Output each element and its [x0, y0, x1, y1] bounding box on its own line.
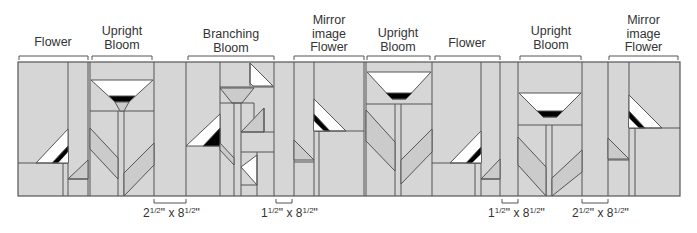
dim-height-frac: 1/2 [529, 206, 540, 215]
dim-width-whole: 1 [261, 206, 268, 220]
inch-mark: " [541, 206, 545, 220]
spacer-dimension-3: 11/2" x 81/2" [488, 206, 545, 220]
dim-width-whole: 2 [572, 206, 579, 220]
inch-mark: " [279, 206, 283, 220]
dim-width-frac: 1/2 [150, 206, 161, 215]
inch-mark: " [506, 206, 510, 220]
inch-mark: " [590, 206, 594, 220]
inch-mark: " [314, 206, 318, 220]
dim-width-whole: 2 [143, 206, 150, 220]
spacer-dimension-1: 21/2" x 81/2" [143, 206, 200, 220]
dim-width-frac: 1/2 [495, 206, 506, 215]
spacer-dimension-2: 11/2" x 81/2" [261, 206, 318, 220]
inch-mark: " [625, 206, 629, 220]
dim-sep: x [168, 206, 174, 220]
bottom-brackets [154, 199, 608, 203]
dim-width-whole: 1 [488, 206, 495, 220]
quilt-strip-diagram [0, 0, 697, 233]
inch-mark: " [161, 206, 165, 220]
dim-width-frac: 1/2 [268, 206, 279, 215]
top-brackets [19, 56, 678, 60]
dim-sep: x [513, 206, 519, 220]
spacer-dimension-4: 21/2" x 81/2" [572, 206, 629, 220]
dim-height-frac: 1/2 [613, 206, 624, 215]
inch-mark: " [196, 206, 200, 220]
dim-height-frac: 1/2 [302, 206, 313, 215]
dim-height-frac: 1/2 [184, 206, 195, 215]
dim-width-frac: 1/2 [579, 206, 590, 215]
dim-sep: x [597, 206, 603, 220]
dim-sep: x [286, 206, 292, 220]
